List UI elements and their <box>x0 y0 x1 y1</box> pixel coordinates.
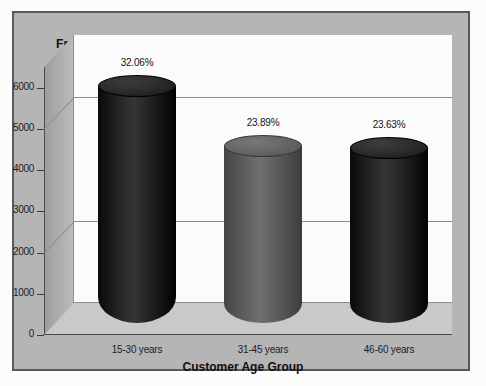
bar-body <box>98 86 176 323</box>
bar-cylinder <box>350 148 428 323</box>
plot-left-wall <box>44 35 74 335</box>
y-axis-tick <box>37 88 44 89</box>
plot-wall-edge <box>73 35 74 303</box>
bar-cylinder <box>224 146 302 323</box>
bar-data-label: 23.63% <box>330 119 448 130</box>
y-axis-tick <box>37 253 44 254</box>
x-axis-line <box>44 334 452 335</box>
y-axis-tick-label: 5000 <box>0 122 34 133</box>
y-axis-tick-label: 0 <box>0 328 34 339</box>
y-axis-tick-label: 1000 <box>0 287 34 298</box>
bar-data-label: 23.89% <box>204 117 322 128</box>
y-axis-tick-label: 2000 <box>0 246 34 257</box>
y-axis-tick-label: 6000 <box>0 81 34 92</box>
y-axis-tick <box>37 129 44 130</box>
y-axis-tick-label: 3000 <box>0 204 34 215</box>
y-axis-line <box>44 67 45 335</box>
bar-top-ellipse <box>350 137 428 159</box>
chart-panel: Frequency 0100020003000400050006000 32.0… <box>12 11 470 371</box>
bar-body <box>224 146 302 323</box>
y-axis-tick <box>37 170 44 171</box>
y-axis-tick <box>37 335 44 336</box>
plot-area: 0100020003000400050006000 32.06%23.89%23… <box>44 35 454 335</box>
x-axis-category-label: 31-45 years <box>202 344 324 355</box>
y-axis-tick-label: 4000 <box>0 163 34 174</box>
bar-cylinder <box>98 86 176 323</box>
x-axis-category-label: 15-30 years <box>76 344 198 355</box>
chart-screenshot: Frequency 0100020003000400050006000 32.0… <box>0 0 486 386</box>
x-axis-category-label: 46-60 years <box>328 344 450 355</box>
y-axis-tick <box>37 294 44 295</box>
y-axis-tick <box>37 211 44 212</box>
x-axis-title: Customer Age Group <box>14 360 472 374</box>
bar-top-ellipse <box>98 75 176 97</box>
bar-top-ellipse <box>224 135 302 157</box>
bar-body <box>350 148 428 323</box>
bar-data-label: 32.06% <box>78 57 196 68</box>
